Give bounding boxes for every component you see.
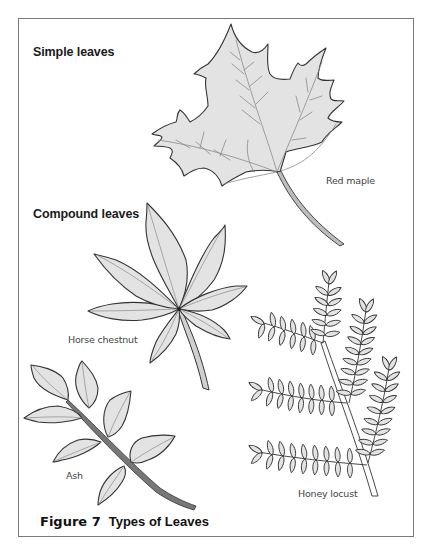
ash-leaf [24, 361, 196, 510]
heading-simple-leaves: Simple leaves [33, 45, 114, 59]
label-ash: Ash [66, 470, 83, 481]
label-horse-chestnut: Horse chestnut [68, 334, 137, 345]
honey-locust-leaf [248, 269, 401, 496]
heading-compound-leaves: Compound leaves [33, 207, 139, 221]
figure-number: Figure 7 [40, 514, 101, 529]
figure-title: Types of Leaves [109, 514, 209, 529]
horse-chestnut-leaf [88, 203, 247, 390]
label-honey-locust: Honey locust [298, 488, 357, 499]
figure-caption: Figure 7Types of Leaves [40, 514, 209, 529]
label-red-maple: Red maple [326, 175, 375, 186]
